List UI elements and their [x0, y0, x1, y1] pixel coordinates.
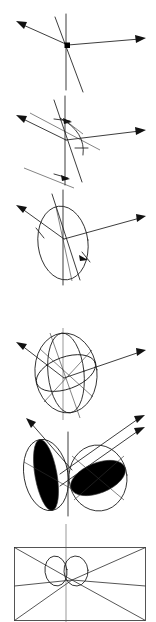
- arrowhead-right-upper: [134, 415, 145, 423]
- sphere-outline: [31, 330, 101, 416]
- axis-upper-left: [21, 208, 64, 239]
- axis-upper-left: [21, 345, 64, 378]
- axis-upper-right: [64, 352, 140, 378]
- panel-6-corner-box: [15, 524, 146, 622]
- panel-2-radii: [16, 96, 146, 188]
- arrowhead-upper-right: [136, 348, 146, 356]
- diagonal-guide-b: [44, 350, 92, 402]
- minor-axis-guide: [56, 207, 72, 281]
- great-circle-horizontal: [31, 347, 100, 398]
- panel-5-two-spheres: [18, 415, 145, 516]
- radius-tick-bottom: [54, 174, 70, 181]
- floor-edge-bottom-right: [72, 580, 146, 621]
- wall-edge-top-right: [72, 548, 146, 581]
- axis-slanted: [54, 100, 82, 182]
- arrowhead-upper-left: [16, 205, 27, 213]
- radius-chord: [66, 121, 83, 134]
- panel-4-sphere: [16, 328, 146, 420]
- axis-upper-left: [21, 24, 68, 45]
- center-point-marker: [65, 43, 71, 49]
- radius-sweep-arc: [60, 118, 83, 155]
- tick-left: [36, 228, 44, 238]
- radius-tick-top: [54, 118, 72, 124]
- axis-slanted: [55, 17, 83, 92]
- panel-3-first-circle: [16, 190, 146, 285]
- axis-upper-right: [64, 218, 140, 239]
- arrowhead-right-lower: [134, 427, 145, 435]
- floor-edge-bottom-left: [15, 580, 73, 621]
- arrowhead-upper-right: [135, 35, 146, 43]
- arrowhead-upper-right: [135, 127, 146, 135]
- axis-slanted: [50, 333, 80, 418]
- axis-upper-right: [68, 39, 140, 45]
- arrowhead-upper-right: [136, 214, 146, 222]
- great-circle-vertical: [44, 331, 88, 414]
- arrowhead-upper-left: [16, 115, 27, 123]
- sphere-construction-figure: [0, 0, 156, 622]
- wall-edge-top-left: [15, 548, 73, 581]
- axis-upper-left: [21, 118, 66, 140]
- panel-1-axes: [16, 14, 146, 92]
- arrowhead-upper-left: [16, 21, 27, 29]
